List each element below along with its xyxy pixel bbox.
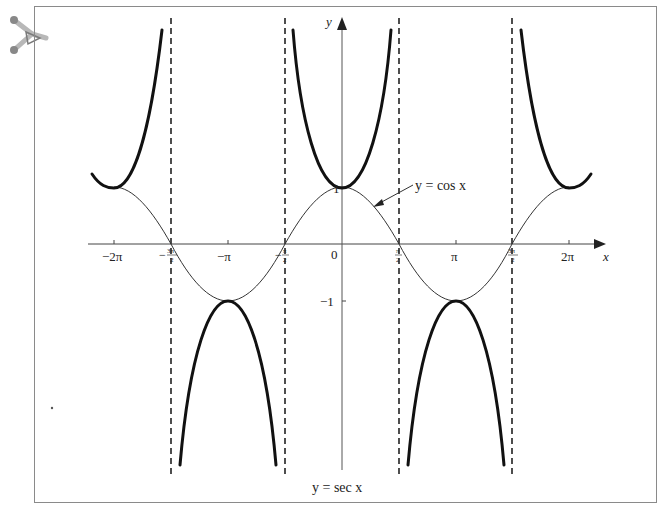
svg-text:−: − [159, 248, 166, 262]
tick-label-3pi-2: 3π 2 [508, 247, 518, 264]
tick-label-neg-2pi: −2π [102, 249, 123, 264]
svg-text:π: π [283, 247, 287, 255]
tick-label-neg-pi: −π [217, 249, 231, 264]
svg-text:2: 2 [511, 256, 515, 264]
cos-annotation-arrow [373, 185, 413, 207]
tick-label-neg-one: −1 [320, 294, 334, 309]
svg-text:2: 2 [170, 256, 174, 264]
tick-label-pi-2: π 2 [395, 247, 402, 264]
x-axis-label: x [602, 249, 609, 264]
tick-label-one: 1 [333, 181, 340, 196]
tick-label-zero: 0 [331, 247, 338, 262]
svg-text:3π: 3π [508, 247, 516, 255]
tick-label-pi: π [451, 249, 458, 264]
stray-dot [51, 407, 53, 409]
chart: y x y = cos x y = sec x −2π −π 0 π 2π − … [0, 0, 663, 514]
sec-label: y = sec x [312, 480, 362, 495]
y-axis-label: y [324, 14, 332, 29]
svg-text:2: 2 [283, 256, 287, 264]
svg-text:−: − [275, 248, 282, 262]
svg-text:π: π [396, 247, 400, 255]
cos-label: y = cos x [415, 178, 466, 193]
svg-text:2: 2 [396, 256, 400, 264]
svg-text:3π: 3π [167, 247, 175, 255]
tick-label-2pi: 2π [561, 249, 575, 264]
